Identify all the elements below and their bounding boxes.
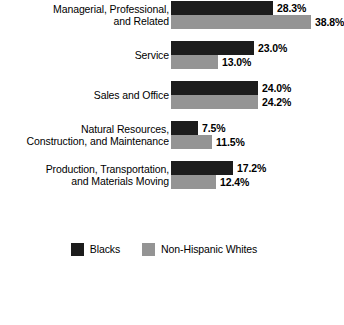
category-label: Managerial, Professional, and Related: [0, 3, 171, 27]
legend-item-blacks: Blacks: [71, 243, 120, 256]
legend-swatch-icon: [71, 243, 84, 256]
bar-row-whites: 38.8%: [171, 15, 344, 29]
bar-blacks: [171, 121, 198, 135]
legend-swatch-icon: [142, 243, 155, 256]
chart-legend: Blacks Non-Hispanic Whites: [0, 243, 328, 256]
category-label: Natural Resources, Construction, and Mai…: [0, 123, 171, 147]
bar-value-whites: 12.4%: [216, 175, 249, 189]
bar-row-whites: 24.2%: [171, 95, 328, 109]
bar-value-blacks: 24.0%: [258, 81, 291, 95]
category-label: Sales and Office: [0, 89, 171, 101]
bar-value-whites: 11.5%: [212, 135, 245, 149]
chart-plot-area: Managerial, Professional, and Related 28…: [0, 0, 328, 200]
bar-value-blacks: 17.2%: [233, 161, 266, 175]
legend-label: Blacks: [90, 243, 120, 256]
bar-pair: 7.5% 11.5%: [171, 121, 328, 149]
bar-whites: [171, 15, 311, 29]
bar-group: Production, Transportation, and Material…: [0, 160, 328, 190]
bar-value-blacks: 28.3%: [273, 1, 306, 15]
category-label: Production, Transportation, and Material…: [0, 163, 171, 187]
bar-pair: 24.0% 24.2%: [171, 81, 328, 109]
bar-row-blacks: 23.0%: [171, 41, 328, 55]
legend-label: Non-Hispanic Whites: [161, 243, 257, 256]
bar-value-whites: 13.0%: [218, 55, 251, 69]
bar-row-whites: 13.0%: [171, 55, 328, 69]
bar-value-blacks: 23.0%: [254, 41, 287, 55]
bar-whites: [171, 175, 216, 189]
bar-whites: [171, 95, 258, 109]
bar-value-blacks: 7.5%: [198, 121, 226, 135]
bar-whites: [171, 55, 218, 69]
bar-blacks: [171, 81, 258, 95]
legend-item-non-hispanic-whites: Non-Hispanic Whites: [142, 243, 257, 256]
bar-row-blacks: 24.0%: [171, 81, 328, 95]
bar-row-blacks: 28.3%: [171, 1, 344, 15]
bar-row-blacks: 17.2%: [171, 161, 328, 175]
bar-group: Natural Resources, Construction, and Mai…: [0, 120, 328, 150]
bar-pair: 28.3% 38.8%: [171, 1, 344, 29]
bar-whites: [171, 135, 212, 149]
bar-pair: 23.0% 13.0%: [171, 41, 328, 69]
bar-group: Service 23.0% 13.0%: [0, 40, 328, 70]
bar-group: Managerial, Professional, and Related 28…: [0, 0, 328, 30]
bar-value-whites: 24.2%: [258, 95, 291, 109]
bar-blacks: [171, 1, 273, 15]
category-label: Service: [0, 49, 171, 61]
bar-row-whites: 11.5%: [171, 135, 328, 149]
bar-pair: 17.2% 12.4%: [171, 161, 328, 189]
bar-row-whites: 12.4%: [171, 175, 328, 189]
bar-row-blacks: 7.5%: [171, 121, 328, 135]
bar-value-whites: 38.8%: [311, 15, 344, 29]
bar-blacks: [171, 41, 254, 55]
bar-group: Sales and Office 24.0% 24.2%: [0, 80, 328, 110]
bar-blacks: [171, 161, 233, 175]
